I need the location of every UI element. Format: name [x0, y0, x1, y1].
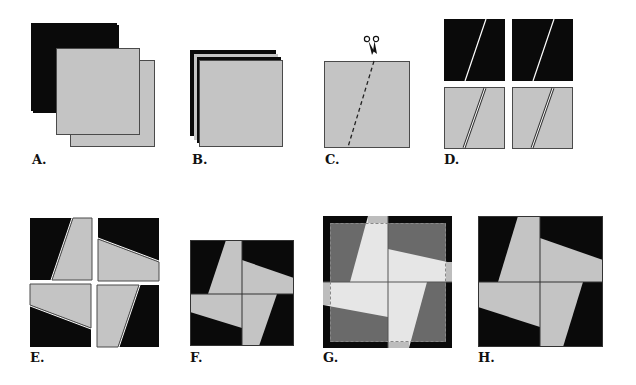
- panel-h: H.: [478, 216, 603, 365]
- panel-label-f: F.: [190, 350, 202, 365]
- panel-label-c: C.: [325, 152, 340, 167]
- quadrant-bottom-right: [97, 285, 159, 347]
- quilt-steps-diagram: A. B. C.: [0, 0, 636, 385]
- panel-b: B.: [190, 50, 283, 167]
- gray-square-front: [57, 49, 140, 135]
- panel-label-d: D.: [444, 152, 459, 167]
- panel-g: G.: [323, 216, 452, 365]
- panel-a: A.: [31, 23, 155, 167]
- gray-cut-square-1: [445, 88, 505, 149]
- panel-label-g: G.: [323, 350, 338, 365]
- panel-label-h: H.: [478, 350, 495, 365]
- panel-d: D.: [444, 19, 573, 167]
- panel-label-a: A.: [31, 152, 47, 167]
- quadrant-top-right: [98, 218, 159, 281]
- panel-e: E.: [30, 218, 159, 365]
- black-cut-square-1: [444, 19, 505, 81]
- black-cut-square-2: [512, 19, 573, 81]
- panel-label-e: E.: [30, 350, 44, 365]
- scissors-icon: [364, 36, 378, 55]
- panel-c: C.: [325, 36, 410, 167]
- quadrant-top-left: [30, 218, 92, 280]
- gray-cut-square-2: [513, 88, 573, 149]
- panel-f: F.: [190, 240, 294, 365]
- stack-layer-gray-2: [200, 61, 283, 147]
- quadrant-bottom-left: [30, 284, 91, 347]
- panel-label-b: B.: [192, 152, 208, 167]
- stacked-square: [325, 62, 410, 148]
